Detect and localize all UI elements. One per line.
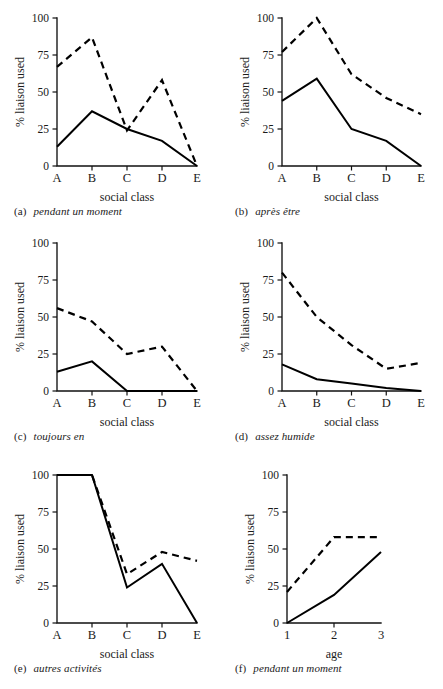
panel-caption: (b)après être: [235, 205, 300, 217]
series-line-solid: [282, 79, 421, 166]
chart-panel-c: 0255075100ABCDEsocial class% liaison use…: [0, 225, 221, 450]
panel-caption-text: toujours en: [27, 430, 85, 442]
plot-area: 0255075100123age% liaison used: [221, 450, 443, 689]
plot-area: 0255075100ABCDEsocial class% liaison use…: [0, 225, 221, 450]
x-category-label: B: [88, 628, 96, 642]
y-tick-label: 0: [43, 385, 49, 397]
figure-panel-grid: 0255075100ABCDEsocial class% liaison use…: [0, 0, 443, 689]
panel-caption: (e)autres activités: [14, 662, 102, 674]
axis-lines: [282, 243, 421, 391]
x-axis-title: age: [326, 647, 343, 661]
x-category-label: D: [157, 171, 166, 185]
panel-caption: (c)toujours en: [14, 430, 84, 442]
panel-caption-tag: (b): [235, 205, 248, 217]
panel-caption: (d)assez humide: [235, 430, 315, 442]
y-tick-label: 100: [262, 469, 280, 481]
y-tick-label: 25: [263, 348, 275, 360]
y-tick-label: 50: [268, 543, 280, 555]
x-axis-title: social class: [324, 190, 379, 204]
y-tick-label: 75: [268, 506, 280, 518]
chart-panel-e: 0255075100ABCDEsocial class% liaison use…: [0, 450, 221, 689]
y-axis-title: % liaison used: [13, 514, 27, 584]
x-axis-title: social class: [100, 415, 155, 429]
y-tick-label: 100: [257, 237, 275, 249]
panel-caption-tag: (c): [14, 430, 27, 442]
plot-area: 0255075100ABCDEsocial class% liaison use…: [221, 225, 443, 450]
y-tick-label: 25: [38, 123, 50, 135]
y-axis-title: % liaison used: [13, 57, 27, 127]
x-category-label: D: [157, 396, 166, 410]
series-line-dashed: [282, 18, 421, 114]
x-category-label: E: [193, 396, 201, 410]
series-line-solid: [57, 111, 197, 166]
y-tick-label: 75: [263, 49, 275, 61]
y-tick-label: 0: [273, 617, 279, 629]
y-tick-label: 25: [38, 580, 50, 592]
y-tick-label: 25: [263, 123, 275, 135]
x-category-label: D: [157, 628, 166, 642]
axis-lines: [57, 475, 197, 623]
x-category-label: B: [313, 171, 321, 185]
x-category-label: A: [52, 396, 61, 410]
y-tick-label: 50: [263, 311, 275, 323]
x-category-label: C: [123, 628, 131, 642]
chart-panel-a: 0255075100ABCDEsocial class% liaison use…: [0, 0, 221, 225]
series-line-dashed: [57, 475, 197, 574]
panel-caption-text: pendant un moment: [27, 205, 122, 217]
y-tick-label: 50: [38, 311, 50, 323]
y-tick-label: 0: [268, 385, 274, 397]
y-tick-label: 50: [263, 86, 275, 98]
y-tick-label: 0: [43, 160, 49, 172]
x-category-label: D: [382, 396, 391, 410]
axis-lines: [287, 475, 381, 623]
panel-caption-text: après être: [248, 205, 300, 217]
x-category-label: A: [52, 171, 61, 185]
x-category-label: C: [123, 171, 131, 185]
series-line-dashed: [282, 273, 421, 369]
y-axis-title: % liaison used: [238, 282, 252, 352]
x-category-label: A: [277, 396, 286, 410]
y-tick-label: 100: [32, 469, 50, 481]
x-category-label: B: [88, 171, 96, 185]
x-axis-title: social class: [100, 190, 155, 204]
y-tick-label: 75: [38, 49, 50, 61]
series-line-solid: [282, 364, 421, 391]
x-category-label: A: [277, 171, 286, 185]
x-category-label: D: [382, 171, 391, 185]
panel-caption-tag: (d): [235, 430, 248, 442]
x-category-label: C: [123, 396, 131, 410]
y-tick-label: 50: [38, 86, 50, 98]
series-line-dashed: [57, 308, 197, 391]
y-tick-label: 25: [268, 580, 280, 592]
y-tick-label: 100: [257, 12, 275, 24]
series-line-dashed: [57, 37, 197, 166]
panel-caption-tag: (a): [14, 205, 27, 217]
x-axis-title: social class: [100, 647, 155, 661]
panel-caption-text: assez humide: [248, 430, 315, 442]
y-tick-label: 100: [32, 12, 50, 24]
chart-panel-d: 0255075100ABCDEsocial class% liaison use…: [221, 225, 443, 450]
axis-lines: [57, 18, 197, 166]
y-axis-title: % liaison used: [13, 282, 27, 352]
y-tick-label: 75: [38, 506, 50, 518]
y-tick-label: 100: [32, 237, 50, 249]
panel-caption-text: pendant un moment: [246, 662, 341, 674]
x-category-label: C: [347, 396, 355, 410]
x-category-label: C: [347, 171, 355, 185]
plot-area: 0255075100ABCDEsocial class% liaison use…: [221, 0, 443, 225]
x-category-label: E: [417, 396, 425, 410]
x-category-label: B: [313, 396, 321, 410]
y-axis-title: % liaison used: [243, 514, 257, 584]
series-line-solid: [287, 552, 381, 623]
panel-caption: (f)pendant un moment: [235, 662, 342, 674]
y-axis-title: % liaison used: [238, 57, 252, 127]
plot-area: 0255075100ABCDEsocial class% liaison use…: [0, 450, 221, 689]
y-tick-label: 0: [43, 617, 49, 629]
panel-caption-tag: (e): [14, 662, 27, 674]
panel-caption-tag: (f): [235, 662, 246, 674]
x-axis-title: social class: [324, 415, 379, 429]
x-category-label: 2: [331, 628, 337, 642]
x-category-label: A: [52, 628, 61, 642]
x-category-label: 3: [378, 628, 384, 642]
y-tick-label: 75: [263, 274, 275, 286]
